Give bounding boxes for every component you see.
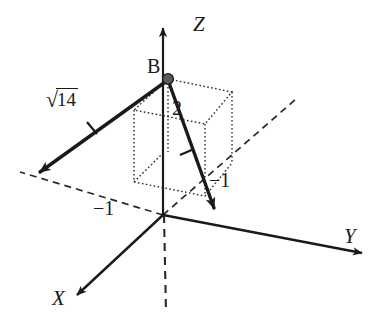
vector-magnitude-label: √14: [46, 88, 78, 111]
point-b-label: B: [147, 56, 160, 76]
x-axis-label: X: [52, 288, 65, 309]
y-axis-line: [163, 215, 362, 253]
negative-z-dashed-ray: [164, 215, 166, 312]
y-axis-label: Y: [344, 226, 356, 247]
radicand-value: 14: [56, 88, 78, 109]
tick-mark-y-vector: [180, 149, 194, 155]
tick-mark-sqrt14-vector: [87, 122, 97, 134]
vector-diagram-svg: [0, 0, 387, 325]
negative-y-dashed-ray: [163, 99, 296, 215]
radical-group: √14: [46, 88, 78, 111]
figure-canvas: Z X Y B 2 −1 −1 √14: [0, 0, 387, 325]
point-b-marker: [163, 74, 174, 85]
y-coordinate-label: −1: [209, 170, 230, 190]
negative-x-dashed-ray: [20, 172, 163, 215]
dashed-guide-lines: [20, 99, 296, 312]
box-bottom-back-edge: [134, 153, 163, 182]
z-axis-label: Z: [193, 14, 205, 35]
x-coordinate-label: −1: [93, 198, 114, 218]
x-axis-line: [77, 215, 163, 295]
origin-marker: [161, 213, 164, 216]
z-coordinate-label: 2: [172, 98, 182, 118]
